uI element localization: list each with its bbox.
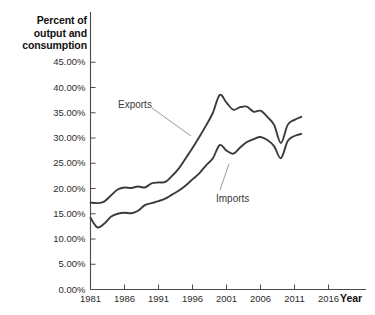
y-axis-title: Percent of output and consumption <box>2 14 87 52</box>
y-tick-label: 35.00% <box>36 107 86 118</box>
chart-container: Percent of output and consumption Year 0… <box>0 0 375 315</box>
y-tick-label: 30.00% <box>36 132 86 143</box>
y-tick-label: 40.00% <box>36 82 86 93</box>
y-tick-label: 15.00% <box>36 208 86 219</box>
chart-tick-marks <box>91 62 329 289</box>
y-tick-label: 45.00% <box>36 56 86 67</box>
x-tick-label: 2016 <box>309 293 349 304</box>
y-tick-label: 5.00% <box>36 258 86 269</box>
series-line-exports <box>91 95 302 203</box>
annotation-exports: Exports <box>118 99 152 110</box>
series-line-imports <box>91 134 302 228</box>
y-tick-label: 10.00% <box>36 233 86 244</box>
y-tick-label: 25.00% <box>36 157 86 168</box>
y-tick-label: 20.00% <box>36 183 86 194</box>
annotation-imports: Imports <box>216 193 249 204</box>
chart-series-lines <box>91 95 302 228</box>
